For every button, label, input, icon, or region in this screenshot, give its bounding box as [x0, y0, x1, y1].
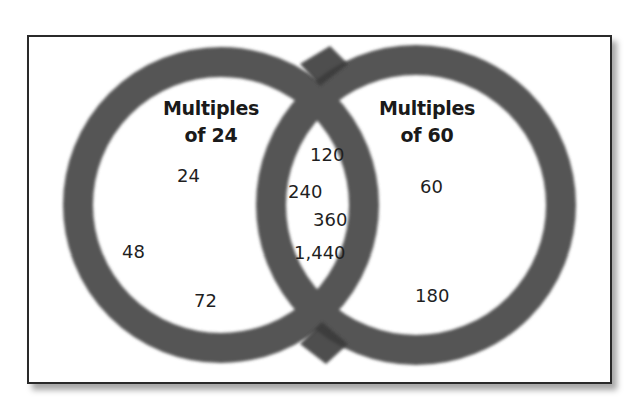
- right-value: 60: [420, 177, 443, 197]
- left-set-title-line1: Multiples: [150, 95, 272, 122]
- left-set-title-line2: of 24: [150, 122, 272, 149]
- venn-rings: [0, 0, 644, 407]
- right-set-title: Multiples of 60: [366, 95, 488, 149]
- left-value: 48: [122, 242, 145, 262]
- intersection-value: 120: [310, 145, 344, 165]
- left-value: 24: [177, 166, 200, 186]
- left-value: 72: [194, 291, 217, 311]
- intersection-value: 360: [313, 210, 347, 230]
- left-set-title: Multiples of 24: [150, 95, 272, 149]
- right-value: 180: [415, 286, 449, 306]
- right-set-title-line2: of 60: [366, 122, 488, 149]
- right-set-title-line1: Multiples: [366, 95, 488, 122]
- intersection-value: 240: [288, 182, 322, 202]
- intersection-value: 1,440: [294, 243, 346, 263]
